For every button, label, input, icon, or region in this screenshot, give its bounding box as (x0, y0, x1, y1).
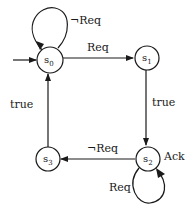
state-subscript: 1 (147, 58, 151, 66)
label-req-loop: Req (109, 181, 131, 194)
state-s3: s3 (36, 147, 60, 171)
label-true-left: true (10, 98, 33, 111)
label-req: Req (87, 41, 109, 54)
state-annotation-ack: Ack (163, 150, 185, 163)
state-subscript: 3 (48, 159, 52, 167)
transition-s2-s3: ¬Req (61, 142, 135, 159)
transition-s2-s2: Req (109, 168, 165, 203)
state-diagram: ¬Req Req true Req ¬Req true s0 s1 s2 Ack (0, 0, 196, 216)
label-not-req: ¬Req (87, 142, 118, 155)
transition-s3-s0: true (10, 74, 48, 147)
state-subscript: 2 (148, 159, 152, 167)
transition-s0-s1: Req (63, 41, 133, 58)
state-s0: s0 (37, 47, 63, 73)
state-s2: s2 Ack (136, 147, 185, 171)
arrowhead-icon (156, 168, 165, 178)
label-true-right: true (152, 96, 175, 109)
state-subscript: 0 (49, 60, 53, 68)
transition-s1-s2: true (146, 70, 175, 145)
label-not-req-loop: ¬Req (70, 14, 101, 27)
state-s1: s1 (135, 46, 159, 70)
